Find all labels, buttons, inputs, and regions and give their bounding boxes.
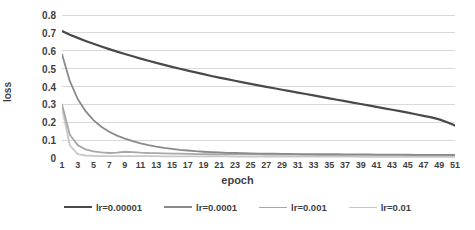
x-tick-label: 43 — [387, 160, 397, 170]
y-tick-label: 0.5 — [18, 63, 56, 74]
y-tick-label: 0.8 — [18, 10, 56, 21]
y-tick-label: 0.7 — [18, 27, 56, 38]
x-tick-label: 39 — [356, 160, 366, 170]
x-tick-label: 33 — [309, 160, 319, 170]
x-tick-label: 5 — [91, 160, 96, 170]
plot-area — [62, 15, 455, 158]
legend-label: lr=0.001 — [291, 202, 327, 213]
x-tick-label: 49 — [434, 160, 444, 170]
x-tick-label: 17 — [183, 160, 193, 170]
y-axis-tick-labels: 0.80.70.60.50.40.30.20.10 — [18, 0, 56, 230]
loss-vs-epoch-line-chart: loss 0.80.70.60.50.40.30.20.10 135791113… — [0, 0, 475, 230]
legend-item[interactable]: lr=0.00001 — [64, 202, 142, 213]
x-tick-label: 11 — [136, 160, 146, 170]
legend-item[interactable]: lr=0.0001 — [164, 202, 237, 213]
series-line — [62, 31, 455, 125]
x-tick-label: 1 — [59, 160, 64, 170]
y-axis-title: loss — [2, 62, 13, 122]
legend-line-swatch-icon — [64, 206, 92, 208]
x-tick-label: 13 — [151, 160, 161, 170]
legend-label: lr=0.0001 — [196, 202, 237, 213]
x-tick-label: 9 — [122, 160, 127, 170]
x-tick-label: 51 — [450, 160, 460, 170]
y-tick-label: 0.3 — [18, 99, 56, 110]
y-tick-label: 0 — [18, 153, 56, 164]
y-tick-label: 0.6 — [18, 45, 56, 56]
legend-item[interactable]: lr=0.001 — [259, 202, 327, 213]
chart-legend: lr=0.00001lr=0.0001lr=0.001lr=0.01 — [0, 198, 475, 216]
series-line — [62, 108, 455, 157]
x-tick-label: 35 — [324, 160, 334, 170]
x-tick-label: 27 — [261, 160, 271, 170]
x-tick-label: 45 — [403, 160, 413, 170]
legend-item[interactable]: lr=0.01 — [349, 202, 411, 213]
legend-line-swatch-icon — [349, 207, 377, 208]
x-tick-label: 47 — [419, 160, 429, 170]
legend-line-swatch-icon — [259, 207, 287, 208]
y-tick-label: 0.2 — [18, 117, 56, 128]
x-axis-title: epoch — [0, 174, 475, 186]
x-tick-label: 31 — [293, 160, 303, 170]
x-tick-label: 37 — [340, 160, 350, 170]
x-tick-label: 3 — [75, 160, 80, 170]
x-tick-label: 23 — [230, 160, 240, 170]
x-tick-label: 19 — [198, 160, 208, 170]
x-axis-tick-labels: 1357911131517192123252729313335373941434… — [62, 160, 455, 174]
legend-line-swatch-icon — [164, 206, 192, 208]
y-tick-label: 0.4 — [18, 81, 56, 92]
y-tick-label: 0.1 — [18, 135, 56, 146]
legend-label: lr=0.00001 — [96, 202, 142, 213]
x-tick-label: 15 — [167, 160, 177, 170]
x-tick-label: 29 — [277, 160, 287, 170]
x-tick-label: 7 — [107, 160, 112, 170]
series-line — [62, 104, 455, 155]
legend-label: lr=0.01 — [381, 202, 411, 213]
x-tick-label: 25 — [246, 160, 256, 170]
x-tick-label: 41 — [371, 160, 381, 170]
x-tick-label: 21 — [214, 160, 224, 170]
plot-canvas — [62, 15, 455, 158]
